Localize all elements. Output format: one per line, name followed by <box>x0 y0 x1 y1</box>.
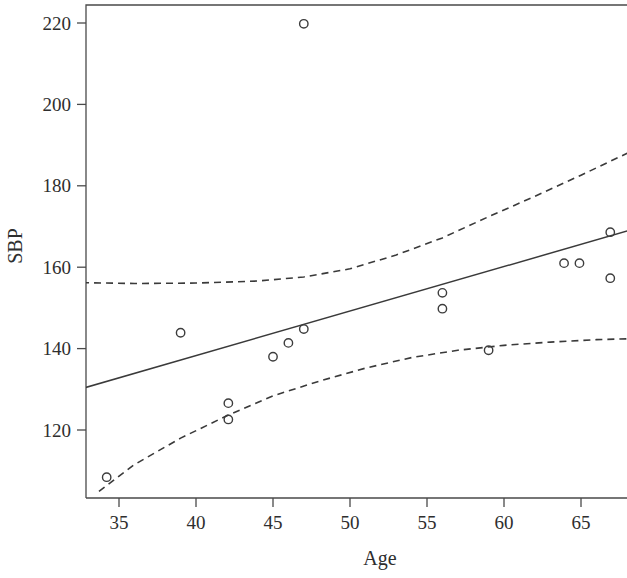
x-axis-title: Age <box>363 547 396 570</box>
x-axis-tick-label: 55 <box>418 512 437 533</box>
y-axis-tick-label: 120 <box>43 420 72 441</box>
plot-canvas: 120140160180200220 35404550556065 SBP Ag… <box>0 0 627 578</box>
figure-background <box>0 0 627 578</box>
y-axis-title: SBP <box>4 228 26 264</box>
x-axis-tick-label: 50 <box>341 512 360 533</box>
y-axis-tick-label: 180 <box>43 175 72 196</box>
y-axis-tick-label: 140 <box>43 338 72 359</box>
x-axis-tick-label: 40 <box>187 512 206 533</box>
y-axis-tick-label: 200 <box>43 94 72 115</box>
x-axis-tick-label: 45 <box>264 512 283 533</box>
x-axis-tick-label: 65 <box>572 512 591 533</box>
x-axis-tick-label: 60 <box>495 512 514 533</box>
scatter-plot-figure: 120140160180200220 35404550556065 SBP Ag… <box>0 0 627 578</box>
y-axis-tick-label: 220 <box>43 13 72 34</box>
x-axis-tick-label: 35 <box>110 512 129 533</box>
y-axis-tick-label: 160 <box>43 257 72 278</box>
